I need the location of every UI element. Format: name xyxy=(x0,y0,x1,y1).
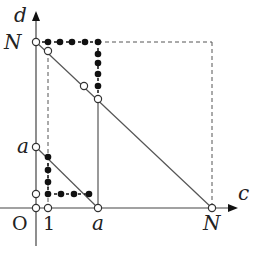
lattice-diagram: d c N a O 1 a N xyxy=(0,0,253,261)
solid-lines xyxy=(36,42,212,208)
filled-dots-lower xyxy=(45,154,93,198)
filled-dots-upper xyxy=(45,39,102,90)
y-axis-label: d xyxy=(14,3,27,27)
y-tick-a: a xyxy=(17,134,29,158)
x-tick-N: N xyxy=(202,211,222,235)
open-circle-diag-mid xyxy=(80,82,87,89)
open-circle-a-diag xyxy=(94,95,101,102)
open-circle-origin xyxy=(32,204,39,211)
open-circle-0-1 xyxy=(32,190,39,197)
y-tick-N: N xyxy=(3,30,23,54)
open-circle-1-0 xyxy=(44,204,51,211)
x-tick-a: a xyxy=(92,211,104,235)
x-axis-label: c xyxy=(238,181,249,205)
origin-label: O xyxy=(12,212,28,234)
open-circle-0-a xyxy=(32,143,39,150)
diagonal-N-line xyxy=(36,42,212,208)
x-tick-1: 1 xyxy=(43,212,55,234)
open-circle-1-diag xyxy=(44,47,51,54)
open-circle-0-N xyxy=(32,38,39,45)
diagram: d c N a O 1 a N xyxy=(0,0,253,261)
